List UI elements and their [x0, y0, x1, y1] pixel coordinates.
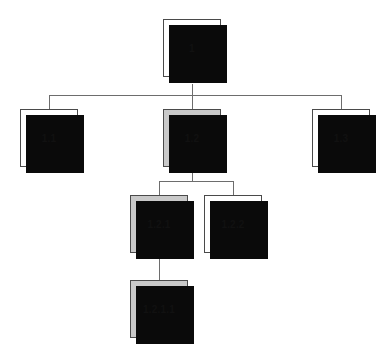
node-1-1[interactable]: 1.1 [20, 109, 78, 167]
connector-level1-bus [49, 95, 342, 96]
node-label: 1.3 [334, 133, 349, 144]
tree-diagram: 1 1.1 1.2 1.3 1.2.1 1.2.2 1.2.1.1 [0, 0, 392, 364]
connector-to-1-3 [341, 95, 342, 109]
node-shadow [136, 286, 194, 344]
node-1-2-1[interactable]: 1.2.1 [130, 195, 188, 253]
node-shadow [169, 25, 227, 83]
connector-to-1-2-2 [233, 181, 234, 195]
node-1[interactable]: 1 [163, 19, 221, 77]
connector-level2-bus [159, 181, 234, 182]
node-1-2-1-1[interactable]: 1.2.1.1 [130, 280, 188, 338]
node-label: 1.1 [42, 133, 57, 144]
node-1-2-2[interactable]: 1.2.2 [204, 195, 262, 253]
node-shadow [318, 115, 376, 173]
node-label: 1.2.1.1 [143, 304, 175, 315]
node-label: 1 [189, 43, 195, 54]
connector-to-1-2 [192, 95, 193, 109]
node-shadow [210, 201, 268, 259]
node-shadow [169, 115, 227, 173]
node-label: 1.2 [185, 133, 200, 144]
connector-to-1-1 [49, 95, 50, 109]
node-1-2[interactable]: 1.2 [163, 109, 221, 167]
node-1-3[interactable]: 1.3 [312, 109, 370, 167]
node-shadow [26, 115, 84, 173]
connector-to-1-2-1 [159, 181, 160, 195]
node-shadow [136, 201, 194, 259]
node-label: 1.2.1 [147, 219, 170, 230]
node-label: 1.2.2 [221, 219, 244, 230]
